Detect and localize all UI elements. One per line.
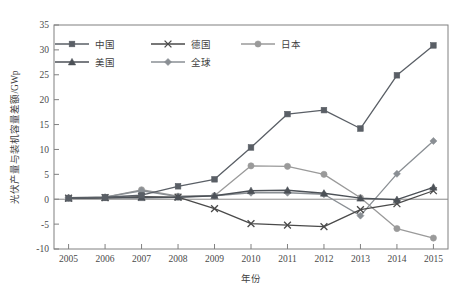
marker-square	[69, 41, 75, 47]
marker-square	[358, 126, 364, 132]
legend-label-全球: 全球	[191, 57, 211, 68]
x-tick-label: 2008	[169, 254, 188, 264]
x-tick-label: 2012	[314, 254, 333, 264]
x-tick-label: 2013	[351, 254, 370, 264]
legend-item-中国[interactable]: 中国	[55, 39, 115, 50]
x-tick-label: 2005	[59, 254, 78, 264]
marker-square	[66, 195, 72, 201]
marker-square	[102, 194, 108, 200]
y-tick-label: 20	[40, 95, 50, 105]
y-tick-label: 25	[40, 70, 50, 80]
marker-circle	[321, 171, 327, 177]
y-tick-label: 5	[44, 170, 49, 180]
series-line-日本	[69, 166, 434, 238]
y-axis-title: 光伏产量与装机容量差额/GWp	[9, 70, 20, 203]
marker-square	[321, 107, 327, 113]
legend-label-日本: 日本	[281, 39, 301, 50]
x-tick-label: 2014	[387, 254, 406, 264]
legend-label-美国: 美国	[95, 57, 115, 68]
series-中国	[66, 43, 436, 201]
chart-figure: -10-505101520253035200520062007200820092…	[0, 0, 469, 298]
x-tick-label: 2006	[96, 254, 115, 264]
series-line-全球	[69, 141, 434, 216]
marker-x	[211, 205, 218, 212]
marker-circle	[284, 163, 290, 169]
legend-item-全球[interactable]: 全球	[151, 57, 211, 68]
x-tick-label: 2007	[132, 254, 151, 264]
y-tick-label: 0	[44, 195, 49, 205]
series-美国	[65, 184, 437, 203]
legend-item-德国[interactable]: 德国	[151, 39, 211, 50]
marker-square	[431, 43, 437, 49]
marker-circle	[430, 235, 436, 241]
marker-circle	[248, 163, 254, 169]
marker-square	[175, 183, 181, 189]
legend-label-中国: 中国	[95, 39, 115, 50]
legend-item-美国[interactable]: 美国	[55, 57, 115, 68]
y-tick-label: -5	[41, 220, 49, 230]
marker-square	[394, 72, 400, 78]
marker-circle	[255, 41, 261, 47]
y-tick-label: -10	[36, 244, 49, 254]
marker-triangle	[430, 184, 437, 190]
legend-item-日本[interactable]: 日本	[241, 39, 301, 50]
y-tick-label: 10	[40, 145, 50, 155]
marker-square	[139, 192, 145, 198]
y-tick-label: 30	[40, 45, 50, 55]
x-axis-title: 年份	[241, 273, 261, 284]
x-tick-label: 2015	[424, 254, 443, 264]
x-tick-label: 2009	[205, 254, 224, 264]
line-chart: -10-505101520253035200520062007200820092…	[0, 0, 469, 298]
marker-square	[285, 111, 291, 117]
y-tick-label: 15	[40, 120, 50, 130]
marker-diamond	[165, 59, 172, 66]
series-line-中国	[69, 45, 434, 198]
series-日本	[65, 163, 436, 241]
legend-label-德国: 德国	[191, 39, 211, 50]
marker-square	[212, 177, 218, 183]
x-tick-label: 2011	[278, 254, 297, 264]
marker-square	[248, 145, 254, 151]
x-tick-label: 2010	[242, 254, 261, 264]
y-tick-label: 35	[40, 20, 50, 30]
marker-circle	[394, 225, 400, 231]
